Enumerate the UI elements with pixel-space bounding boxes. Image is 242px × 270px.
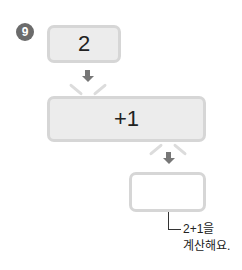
start-value-box: 2: [47, 25, 121, 63]
result-answer-box[interactable]: [129, 172, 206, 212]
hint-line-2: 계산해요.: [183, 238, 230, 255]
operation-label: +1: [114, 106, 139, 132]
hint-line-1: 2+1을: [183, 221, 230, 238]
hint-leader-line: [168, 212, 181, 230]
spark-right-decoration: [93, 83, 107, 96]
spark-right-decoration-2: [173, 143, 187, 156]
problem-number-badge: 9: [16, 23, 34, 41]
start-value: 2: [78, 31, 90, 57]
hint-text: 2+1을 계산해요.: [183, 221, 230, 255]
spark-left-decoration-2: [149, 143, 163, 156]
operation-box: +1: [47, 96, 206, 142]
spark-left-decoration: [69, 83, 83, 96]
